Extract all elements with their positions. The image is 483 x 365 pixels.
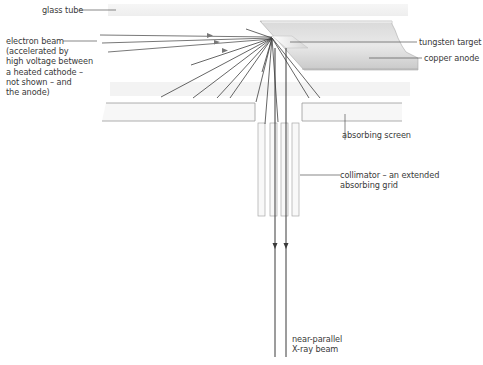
glass-tube-bottom (110, 82, 410, 96)
label-tungsten-target: tungsten target (419, 37, 482, 47)
label-electron-beam: electron beam (accelerated by high volta… (6, 36, 93, 97)
label-xray-beam: near-parallel X-ray beam (292, 334, 342, 354)
label-absorbing-screen: absorbing screen (342, 130, 411, 140)
label-glass-tube: glass tube (42, 5, 83, 15)
electron-beam (100, 33, 272, 53)
label-collimator: collimator – an extended absorbing grid (340, 170, 439, 190)
label-copper-anode: copper anode (424, 53, 479, 63)
absorbing-screen (102, 103, 402, 121)
glass-tube-top (108, 4, 408, 16)
collimator (258, 123, 299, 216)
